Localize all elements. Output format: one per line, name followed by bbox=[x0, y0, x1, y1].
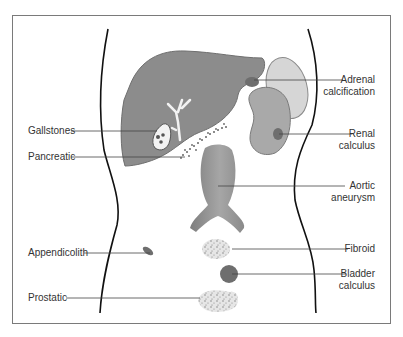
label-renal-line1: Renal bbox=[339, 128, 375, 140]
adrenal-gland bbox=[245, 77, 259, 87]
gallstone-3 bbox=[159, 140, 163, 144]
label-renal-line2: calculus bbox=[339, 140, 375, 152]
label-fibroid: Fibroid bbox=[344, 243, 375, 255]
label-bladder-line1: Bladder bbox=[339, 268, 375, 280]
gallstone-2 bbox=[161, 133, 165, 137]
label-adrenal-line2: calcification bbox=[323, 86, 375, 98]
label-renal-calculus: Renal calculus bbox=[339, 128, 375, 152]
gallstone-1 bbox=[156, 135, 160, 139]
label-bladder-calculus: Bladder calculus bbox=[339, 268, 375, 292]
label-prostatic: Prostatic bbox=[28, 292, 67, 304]
label-appendicolith: Appendicolith bbox=[28, 247, 88, 259]
label-gallstones: Gallstones bbox=[28, 125, 75, 137]
label-adrenal-line1: Adrenal bbox=[323, 74, 375, 86]
label-aortic-line1: Aortic bbox=[331, 180, 375, 192]
body-outline-left bbox=[100, 29, 118, 313]
label-fibroid-line1: Fibroid bbox=[344, 243, 375, 255]
label-adrenal-calcification: Adrenal calcification bbox=[323, 74, 375, 98]
label-aortic-line2: aneurysm bbox=[331, 192, 375, 204]
label-pancreatic: Pancreatic bbox=[28, 151, 75, 163]
label-bladder-line2: calculus bbox=[339, 280, 375, 292]
label-aortic-aneurysm: Aortic aneurysm bbox=[331, 180, 375, 204]
fibroid-shape bbox=[202, 239, 230, 259]
liver-shape bbox=[121, 51, 265, 166]
kidney-front bbox=[249, 87, 290, 154]
appendicolith-shape bbox=[141, 245, 154, 257]
prostatic-shape bbox=[198, 290, 238, 312]
aortic-aneurysm-shape bbox=[190, 144, 244, 233]
